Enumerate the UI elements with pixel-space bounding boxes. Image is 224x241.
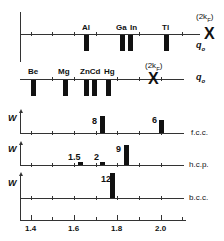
bcc-axis (20, 198, 184, 199)
hcp-value-2: 2 (94, 153, 99, 162)
hcp-bar-9 (124, 145, 129, 165)
bcc-w-label: W (8, 178, 17, 188)
fcc-bar-8 (100, 116, 105, 133)
2kf-label: (2kF) (196, 13, 213, 24)
label-al: Al (82, 24, 90, 32)
2kf-marker-2: X (148, 72, 159, 86)
label-mg: Mg (58, 68, 70, 76)
panel1-vertical-axis (20, 12, 21, 62)
fcc-w-label: W (8, 113, 17, 123)
hcp-value-1-5: 1.5 (68, 153, 81, 162)
label-in: In (130, 24, 137, 32)
hcp-y-axis (20, 144, 21, 165)
hcp-value-9: 9 (116, 145, 121, 154)
hcp-w-label: W (8, 144, 17, 154)
bcc-structure-label: b.c.c. (189, 194, 208, 202)
label-ga: Ga (116, 24, 127, 32)
x-tick-2-0: 2.0 (155, 224, 166, 233)
bar-in (128, 35, 133, 51)
label-be: Be (28, 68, 38, 76)
hcp-structure-label: h.c.p. (189, 161, 209, 169)
panel2-axis (20, 79, 184, 80)
hcp-bar-2 (100, 162, 105, 165)
hcp-bar-1-5 (78, 162, 83, 165)
bar-be (31, 80, 36, 96)
label-zncd: ZnCd (80, 68, 100, 76)
fcc-value-6: 6 (152, 116, 157, 125)
fcc-axis (20, 133, 184, 134)
q0-label: qo (196, 40, 205, 52)
hcp-axis (20, 165, 184, 166)
x-tick-1-6: 1.6 (68, 224, 79, 233)
bar-hg (106, 80, 111, 96)
x-axis-line (20, 220, 186, 221)
fcc-bar-6 (159, 120, 164, 133)
fcc-structure-label: f.c.c. (191, 129, 208, 137)
label-hg: Hg (104, 68, 115, 76)
bar-tl (164, 35, 169, 51)
bar-zn (84, 80, 89, 96)
bar-al (84, 35, 89, 51)
bar-mg (63, 80, 68, 96)
fcc-y-axis (20, 112, 21, 133)
x-tick-1-4: 1.4 (25, 224, 36, 233)
bcc-value-12: 12 (101, 175, 111, 184)
fcc-value-8: 8 (92, 117, 97, 126)
label-tl: Tl (162, 24, 169, 32)
bar-cd (92, 80, 97, 96)
bar-ga (120, 35, 125, 51)
panel1-axis (20, 34, 200, 35)
2kf-marker: X (204, 27, 215, 41)
q0-label-2: qo (196, 72, 205, 84)
x-tick-1-8: 1.8 (111, 224, 122, 233)
